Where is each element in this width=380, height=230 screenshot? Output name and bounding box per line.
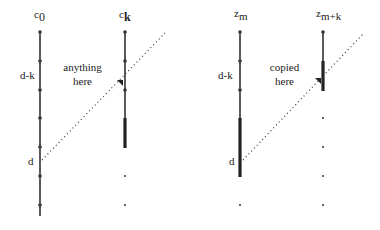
column-ck-label: ck [119,8,131,20]
zmk-subscript: m+k [321,10,341,22]
right-interval-label: d-k [218,70,233,81]
left-interval-label: d-k [20,70,35,81]
right-panel [238,30,364,206]
left-point-label: d [28,156,34,167]
left-panel [38,30,165,216]
zm-subscript: m [239,10,248,22]
right-note-line1: copied [262,60,307,74]
left-note-line2: here [60,74,105,88]
right-point-label: d [229,156,235,167]
ck-subscript: k [124,10,131,24]
column-zmk-label: zm+k [316,8,341,19]
left-note: anything here [60,60,105,88]
right-note-line2: here [262,74,307,88]
right-note: copied here [262,60,307,88]
left-dotted-diagonal [42,33,165,160]
left-arrow-icon [117,80,123,86]
left-note-line1: anything [60,60,105,74]
diagram-canvas [0,0,380,230]
column-zm-label: zm [234,8,247,19]
column-c0-label: c0 [34,8,45,20]
c0-subscript: 0 [39,10,45,24]
right-dotted-diagonal [243,33,364,160]
right-arrow-icon [315,78,321,84]
